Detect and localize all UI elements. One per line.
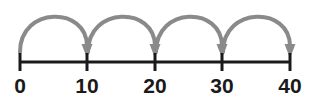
tick-label-40: 40 [278,74,301,97]
jump-10-to-20 [88,17,161,58]
tick-label-30: 30 [210,74,233,97]
jump-30-to-40 [223,17,296,58]
jump-arcs-group [20,17,296,58]
jump-arc-path [223,17,290,52]
number-line-figure: 0 10 20 30 40 [0,0,311,98]
tick-label-10: 10 [75,74,98,97]
tick-label-0: 0 [14,74,26,97]
number-line-svg: 0 10 20 30 40 [0,0,311,98]
jump-arc-path [156,17,222,52]
tick-label-20: 20 [143,74,166,97]
tick-labels-group: 0 10 20 30 40 [14,74,302,97]
jump-arc-path [88,17,155,52]
jump-0-to-10 [20,17,93,58]
jump-arc-path [20,17,87,52]
jump-20-to-30 [156,17,228,58]
